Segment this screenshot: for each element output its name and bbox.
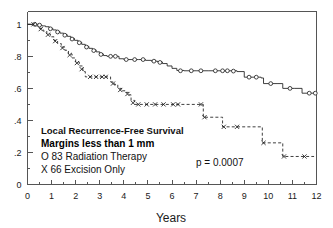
- censor-mark-circle: [313, 91, 317, 95]
- censor-mark-circle: [92, 49, 96, 53]
- y-tick-label: .2: [14, 148, 22, 158]
- censor-mark-circle: [56, 30, 60, 34]
- x-axis-title: Years: [156, 211, 186, 225]
- censor-mark-circle: [38, 23, 42, 27]
- censor-mark-circle: [247, 75, 251, 79]
- censor-mark-circle: [221, 69, 225, 73]
- y-tick-label: 0: [16, 180, 21, 190]
- x-tick-label: 0: [25, 191, 30, 201]
- x-tick-label: 12: [311, 191, 321, 201]
- censor-mark-circle: [99, 53, 103, 57]
- x-tick-label: 3: [97, 191, 102, 201]
- censor-mark-circle: [225, 69, 229, 73]
- censor-mark-circle: [114, 54, 118, 58]
- censor-mark-circle: [179, 69, 183, 73]
- annotation-title-line2: Margins less than 1 mm: [41, 138, 154, 149]
- y-tick-label: .8: [14, 52, 22, 62]
- x-tick-label: 9: [242, 191, 247, 201]
- censor-mark-circle: [269, 82, 273, 86]
- x-tick-label: 8: [218, 191, 223, 201]
- censor-mark-circle: [63, 33, 67, 37]
- censor-mark-circle: [254, 75, 258, 79]
- p-value-annotation: p = 0.0007: [196, 157, 244, 168]
- x-tick-label: 11: [288, 191, 297, 201]
- censor-mark-circle: [232, 69, 236, 73]
- censor-mark-circle: [189, 69, 193, 73]
- x-tick-label: 10: [263, 191, 273, 201]
- censor-mark-circle: [124, 58, 128, 62]
- legend-entry-radiation-therapy: O 83 Radiation Therapy: [41, 151, 147, 162]
- y-tick-label: 1: [16, 20, 21, 30]
- survival-chart-figure: 01234567891011120.2.4.6.81 Years Local R…: [0, 0, 333, 228]
- censor-mark-circle: [48, 27, 52, 31]
- censor-mark-circle: [152, 59, 156, 63]
- censor-mark-circle: [213, 69, 217, 73]
- censor-mark-circle: [77, 41, 81, 45]
- x-tick-label: 5: [145, 191, 150, 201]
- censor-mark-circle: [109, 54, 113, 58]
- censor-mark-circle: [158, 61, 162, 65]
- x-tick-label: 1: [49, 191, 54, 201]
- censor-mark-circle: [288, 86, 292, 90]
- legend-entry-excision-only: X 66 Excision Only: [41, 164, 125, 175]
- censor-mark-circle: [199, 69, 203, 73]
- kaplan-meier-plot: 01234567891011120.2.4.6.81 Years Local R…: [0, 0, 333, 228]
- annotation-title-line1: Local Recurrence-Free Survival: [41, 125, 184, 136]
- censor-mark-circle: [85, 45, 89, 49]
- x-tick-label: 7: [194, 191, 199, 201]
- x-tick-label: 6: [169, 191, 174, 201]
- y-tick-label: .6: [14, 84, 22, 94]
- censor-mark-circle: [70, 37, 74, 41]
- y-tick-label: .4: [14, 116, 22, 126]
- x-tick-label: 4: [121, 191, 126, 201]
- censor-mark-circle: [141, 58, 145, 62]
- x-tick-label: 2: [73, 191, 78, 201]
- censor-mark-circle: [307, 91, 311, 95]
- censor-mark-circle: [133, 58, 137, 62]
